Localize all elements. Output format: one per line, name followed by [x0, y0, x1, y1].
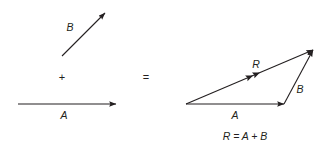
- operand-vector-b-label: B: [66, 21, 73, 33]
- figure-background: [0, 0, 334, 153]
- resultant-vector-r-label: R: [252, 58, 260, 70]
- diagram-canvas: B + A = A B: [0, 0, 334, 153]
- equals-operator-symbol: =: [143, 71, 149, 83]
- figure-caption: R = A + B: [223, 130, 268, 142]
- vector-addition-figure: B + A = A B: [0, 0, 334, 153]
- operand-vector-a-label: A: [59, 109, 67, 121]
- plus-operator-symbol: +: [59, 71, 65, 83]
- resultant-vector-b-label: B: [296, 83, 303, 95]
- resultant-vector-a-label: A: [230, 109, 238, 121]
